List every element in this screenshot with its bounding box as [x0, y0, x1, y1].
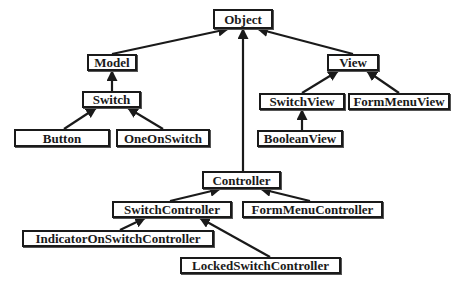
class-node-switchview: SwitchView [259, 93, 345, 110]
inheritance-arrow-indicatoronswitchcontroller-to-switchcontroller [120, 218, 145, 230]
inheritance-arrow-model-to-object [112, 29, 228, 54]
inheritance-arrow-switchcontroller-to-controller [170, 189, 220, 201]
inheritance-arrow-formmenuview-to-view [367, 71, 399, 93]
class-node-lockedswitchcontroller: LockedSwitchController [180, 257, 341, 274]
class-node-switchcontroller: SwitchController [112, 201, 232, 218]
class-node-booleanview: BooleanView [257, 130, 343, 147]
inheritance-arrow-oneonswitch-to-switch [128, 108, 163, 129]
class-node-formmenuview: FormMenuView [348, 93, 450, 110]
class-node-switch: Switch [82, 91, 141, 108]
class-node-oneonswitch: OneOnSwitch [116, 129, 210, 147]
inheritance-arrow-switchview-to-view [302, 71, 338, 93]
class-node-button: Button [14, 129, 110, 147]
inheritance-arrow-view-to-object [258, 29, 353, 54]
inheritance-arrow-button-to-switch [64, 108, 96, 129]
class-node-object: Object [213, 9, 273, 29]
class-node-model: Model [87, 54, 137, 71]
class-node-view: View [327, 54, 379, 71]
class-node-indicatoronswitchcontroller: IndicatorOnSwitchController [22, 230, 214, 247]
class-hierarchy-diagram: ObjectModelSwitchButtonOneOnSwitchViewSw… [0, 0, 469, 287]
class-node-controller: Controller [202, 171, 281, 189]
class-node-formmenucontroller: FormMenuController [242, 201, 383, 218]
inheritance-arrow-formmenucontroller-to-controller [261, 189, 310, 201]
